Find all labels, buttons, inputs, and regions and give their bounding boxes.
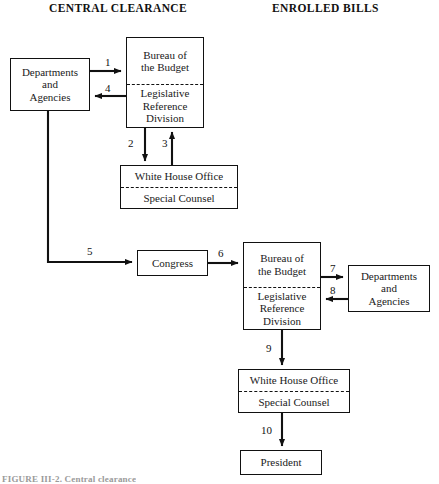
step-label-6: 6 (218, 248, 224, 259)
step-label-8: 8 (330, 285, 336, 296)
step-label-2: 2 (128, 138, 134, 149)
box-label: Departments and Agencies (349, 266, 429, 311)
step-label-5: 5 (87, 246, 93, 257)
box-label: President (241, 451, 321, 474)
box-congress[interactable]: Congress (137, 250, 208, 276)
box-line: Division (263, 315, 301, 328)
box-president[interactable]: President (240, 450, 322, 475)
step-label-10: 10 (261, 425, 272, 436)
step-label-7: 7 (330, 263, 336, 274)
box-line: Departments (22, 66, 78, 79)
box-white-house-office-top[interactable]: White House Office Special Counsel (120, 165, 238, 209)
box-line: Departments (361, 270, 417, 283)
box-line: the Budget (258, 265, 306, 278)
figure-caption: FIGURE III-2. Central clearance (2, 474, 136, 484)
box-line: Division (146, 112, 184, 125)
box-line: Agencies (30, 91, 71, 104)
step-label-1: 1 (105, 57, 111, 68)
step-label-9: 9 (266, 343, 272, 354)
step-label-3: 3 (162, 138, 168, 149)
box-line: Legislative (258, 290, 307, 303)
box-line: Agencies (369, 295, 410, 308)
box-line: Legislative (141, 87, 190, 100)
box-section-bureau: Bureau of the Budget (244, 243, 320, 287)
box-line: and (381, 282, 397, 295)
box-line: Reference (143, 100, 188, 113)
box-line: Reference (260, 302, 305, 315)
box-label: Departments and Agencies (11, 59, 89, 110)
box-section-special-counsel: Special Counsel (239, 392, 349, 413)
box-section-white-house-office: White House Office (239, 370, 349, 391)
box-section-special-counsel: Special Counsel (121, 188, 237, 209)
box-line: the Budget (141, 61, 189, 74)
box-section-white-house-office: White House Office (121, 166, 237, 187)
box-line: Bureau of (143, 49, 187, 62)
box-departments-and-agencies-top[interactable]: Departments and Agencies (10, 58, 90, 111)
box-section-legislative-reference-division: Legislative Reference Division (244, 288, 320, 330)
box-bureau-of-the-budget-bottom[interactable]: Bureau of the Budget Legislative Referen… (243, 242, 321, 330)
box-white-house-office-bottom[interactable]: White House Office Special Counsel (238, 369, 350, 413)
box-label: Congress (138, 251, 207, 275)
box-bureau-of-the-budget-top[interactable]: Bureau of the Budget Legislative Referen… (126, 37, 204, 128)
box-line: and (42, 78, 58, 91)
box-section-legislative-reference-division: Legislative Reference Division (127, 85, 203, 127)
box-section-bureau: Bureau of the Budget (127, 38, 203, 84)
step-label-4: 4 (105, 83, 111, 94)
box-line: Bureau of (260, 252, 304, 265)
box-departments-and-agencies-right[interactable]: Departments and Agencies (348, 265, 430, 312)
flow-diagram: CENTRAL CLEARANCE ENROLLED BILLS (0, 0, 439, 484)
